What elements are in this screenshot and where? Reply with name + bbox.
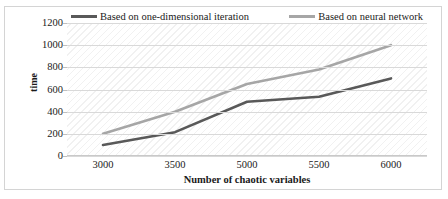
y-axis-tick-label: 200 bbox=[23, 129, 63, 139]
y-axis-tick-label: 600 bbox=[23, 85, 63, 95]
y-axis-tick-label: 1000 bbox=[23, 40, 63, 50]
y-axis-tick-mark bbox=[63, 23, 67, 24]
y-axis-tick-labels: 020040060080010001200 bbox=[19, 23, 63, 156]
legend-label: Based on neural network bbox=[318, 11, 423, 22]
y-axis-tick-mark bbox=[63, 90, 67, 91]
y-axis-tick-label: 1200 bbox=[23, 18, 63, 28]
gridline bbox=[67, 67, 427, 68]
y-axis-tick-label: 800 bbox=[23, 62, 63, 72]
y-axis-tick-label: 400 bbox=[23, 107, 63, 117]
y-axis-tick-mark bbox=[63, 134, 67, 135]
plot-area bbox=[67, 23, 427, 156]
x-axis-tick-label: 3000 bbox=[73, 159, 133, 170]
legend-item[interactable]: Based on neural network bbox=[289, 11, 423, 22]
gridline bbox=[67, 156, 427, 157]
y-axis-tick-mark bbox=[63, 67, 67, 68]
legend-color-swatch bbox=[289, 15, 315, 18]
x-axis-tick-label: 3500 bbox=[145, 159, 205, 170]
x-axis-tick-label: 5000 bbox=[217, 159, 277, 170]
gridline bbox=[67, 112, 427, 113]
y-axis-tick-mark bbox=[63, 45, 67, 46]
x-axis-tick-labels: 30003500500055006000 bbox=[67, 159, 427, 173]
gridline bbox=[67, 90, 427, 91]
x-axis-tick-label: 6000 bbox=[361, 159, 421, 170]
legend-item[interactable]: Based on one-dimensional iteration bbox=[71, 11, 249, 22]
y-axis-tick-label: 0 bbox=[23, 151, 63, 161]
y-axis-tick-mark bbox=[63, 112, 67, 113]
x-axis-title: Number of chaotic variables bbox=[67, 174, 427, 185]
x-axis-tick-label: 5500 bbox=[289, 159, 349, 170]
chart-legend: Based on one-dimensional iterationBased … bbox=[71, 9, 423, 23]
gridline bbox=[67, 134, 427, 135]
chart-container: time 020040060080010001200 3000350050005… bbox=[4, 6, 442, 190]
legend-label: Based on one-dimensional iteration bbox=[100, 11, 249, 22]
legend-color-swatch bbox=[71, 15, 97, 18]
gridline bbox=[67, 45, 427, 46]
y-axis-tick-mark bbox=[63, 156, 67, 157]
gridline bbox=[67, 23, 427, 24]
